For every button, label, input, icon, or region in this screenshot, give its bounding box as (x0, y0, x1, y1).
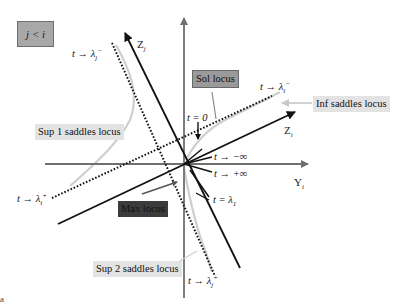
lambda-j-minus-label: t → λj− (72, 48, 102, 60)
sol-locus-label: Sol locus (192, 70, 239, 88)
lambda-i-plus-label: t → λi+ (17, 193, 47, 205)
condition-label: j < i (26, 28, 45, 40)
lambda-j-plus-label: t → λj+ (188, 275, 218, 287)
locus-curves (70, 45, 280, 272)
condition-box: j < i (17, 21, 54, 47)
z-j-label: Zj (137, 38, 146, 50)
loci-diagram (0, 0, 402, 303)
inf-saddles-locus-label: Inf saddles locus (313, 96, 390, 112)
sup1-saddles-locus-label: Sup 1 saddles locus (35, 124, 124, 140)
sol-locus-pointer (212, 92, 216, 119)
t-plus-infinity-label: t → +∞ (214, 168, 247, 180)
t-lambda1-label: t = λ1 (213, 194, 236, 206)
max-locus-pointer (142, 182, 177, 194)
sup2-saddles-locus-label: Sup 2 saddles locus (93, 261, 182, 277)
corner-mark: a (0, 293, 4, 303)
lambda-i-minus-label: t → λi− (260, 81, 290, 93)
max-locus-label: Max locus (118, 201, 168, 217)
t-minus-infinity-label: t → −∞ (214, 151, 247, 163)
lambda-i-asymptote (52, 96, 272, 198)
y-i-label: Yi (294, 176, 304, 188)
z-i-label: Zi (284, 124, 293, 136)
t-zero-label: t = 0 (187, 112, 208, 124)
